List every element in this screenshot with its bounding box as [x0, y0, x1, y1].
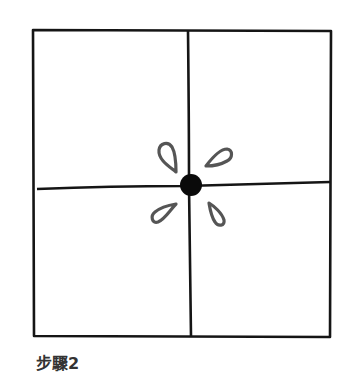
petal-bottom-right-icon	[209, 203, 224, 225]
petal-top-right-icon	[206, 149, 232, 166]
step-caption: 步驟2	[36, 355, 79, 373]
petal-top-left-icon	[159, 143, 176, 172]
step-diagram	[0, 0, 344, 378]
petal-bottom-left-icon	[152, 204, 176, 222]
center-dot	[180, 174, 202, 196]
